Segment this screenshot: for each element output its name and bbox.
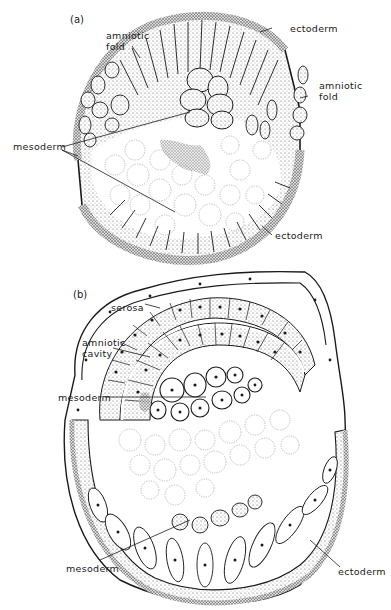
- panel-a-drawing: [62, 16, 308, 261]
- label-ectoderm-bottom-a: ectoderm: [275, 230, 323, 241]
- label-ectoderm-top: ectoderm: [290, 23, 338, 34]
- label-mesoderm-b-bottom: mesoderm: [66, 563, 119, 574]
- label-amniotic-fold-right: amniotic fold: [319, 80, 363, 102]
- label-amniotic-cavity: amniotic cavity: [82, 337, 126, 359]
- panel-b-drawing: [64, 272, 346, 604]
- label-ectoderm-b-bottom: ectoderm: [338, 566, 386, 577]
- label-amniotic-cavity-line1: amniotic: [82, 337, 126, 348]
- label-amniotic-fold-left-line1: amniotic: [106, 30, 150, 41]
- label-amniotic-fold-left: amniotic fold: [106, 30, 150, 52]
- label-amniotic-fold-right-line1: amniotic: [319, 80, 363, 91]
- label-amniotic-fold-right-line2: fold: [319, 91, 363, 102]
- label-amniotic-fold-left-line2: fold: [106, 41, 150, 52]
- label-amniotic-cavity-line2: cavity: [82, 348, 126, 359]
- panel-a-label: (a): [70, 14, 84, 25]
- label-mesoderm-b-mid: mesoderm: [58, 392, 111, 403]
- label-serosa: serosa: [111, 302, 144, 313]
- panel-b-label: (b): [73, 289, 87, 300]
- label-mesoderm-a: mesoderm: [13, 141, 66, 152]
